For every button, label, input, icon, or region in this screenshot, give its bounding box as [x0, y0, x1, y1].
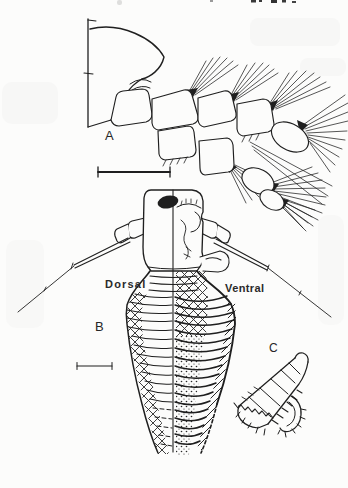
- scale-bar-b: [77, 363, 112, 370]
- panel-c-label: C: [269, 341, 278, 355]
- appendage-segments: [111, 89, 314, 215]
- panel-a-label: A: [105, 128, 114, 143]
- ventral-label: Ventral: [225, 282, 265, 294]
- curved-hook: [278, 396, 306, 437]
- right-neck-lobes: [200, 251, 229, 272]
- scanned-figure-page: A: [0, 0, 348, 488]
- panel-b: Dorsal Ventral B: [18, 190, 331, 455]
- panel-b-label: B: [95, 319, 104, 334]
- scale-bar-a: [98, 167, 170, 177]
- cone-segments: [249, 363, 300, 417]
- panel-c: C: [234, 341, 308, 437]
- measure-line: [84, 19, 111, 127]
- scan-artifacts: [2, 0, 346, 328]
- dorsal-label: Dorsal: [105, 278, 146, 290]
- figure-illustration: A: [0, 0, 348, 488]
- ventral-scale-zone: [176, 271, 208, 336]
- panel-a: A: [84, 19, 348, 231]
